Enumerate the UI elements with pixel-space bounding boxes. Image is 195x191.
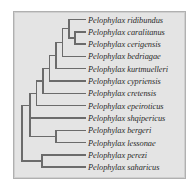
tip-label-saharicus: Pelophylax saharicus: [88, 163, 159, 172]
tip-label-epeiroticus: Pelophylax epeiroticus: [88, 101, 164, 110]
figure-root: Pelophylax ridibundusPelophylax caralita…: [0, 0, 195, 191]
tip-label-perezi: Pelophylax perezi: [88, 150, 147, 159]
tip-label-cerigensis: Pelophylax cerigensis: [88, 40, 161, 49]
tip-label-kurtmuelleri: Pelophylax kurtmuelleri: [88, 64, 168, 73]
branch-layer: [22, 20, 85, 168]
tip-label-shqipericus: Pelophylax shqipericus: [88, 113, 165, 122]
tip-label-caralitanus: Pelophylax caralitanus: [88, 27, 165, 36]
tip-label-ridibundus: Pelophylax ridibundus: [88, 15, 163, 24]
tip-label-bergeri: Pelophylax bergeri: [88, 126, 151, 135]
tip-label-cretensis: Pelophylax cretensis: [88, 89, 156, 98]
tip-label-lessonae: Pelophylax lessonae: [88, 138, 156, 147]
tip-label-cypriensis: Pelophylax cypriensis: [88, 77, 161, 86]
tip-label-bedriagae: Pelophylax bedriagae: [88, 52, 161, 61]
